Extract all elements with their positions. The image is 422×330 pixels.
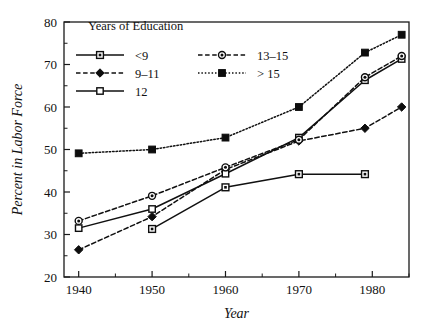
y-tick-label: 70 — [44, 57, 57, 72]
labor-force-line-chart: 20304050607080 19401950196019701980 Year… — [0, 0, 422, 330]
x-tick-label: 1980 — [359, 282, 385, 297]
x-axis-title: Year — [224, 306, 250, 321]
y-tick-label: 50 — [44, 142, 57, 157]
legend-label: 9–11 — [135, 67, 160, 81]
chart-background — [0, 0, 422, 330]
legend-marker — [219, 52, 226, 59]
legend-marker — [97, 88, 103, 94]
y-tick-label: 20 — [44, 270, 57, 285]
y-tick-label: 60 — [44, 100, 57, 115]
legend-title: Years of Education — [88, 19, 184, 33]
x-tick-label: 1960 — [212, 282, 238, 297]
x-tick-label: 1950 — [139, 282, 165, 297]
legend-label: 12 — [135, 85, 148, 99]
x-tick-label: 1940 — [66, 282, 92, 297]
legend-label: <9 — [135, 49, 148, 63]
figure-container: 20304050607080 19401950196019701980 Year… — [0, 0, 422, 330]
y-axis-title: Percent in Labor Force — [10, 84, 25, 217]
legend-label: 13–15 — [257, 49, 288, 63]
y-tick-label: 40 — [44, 185, 57, 200]
x-tick-label: 1970 — [286, 282, 312, 297]
legend-marker — [219, 70, 226, 77]
legend-label: > 15 — [257, 67, 280, 81]
y-tick-label: 30 — [44, 227, 57, 242]
legend-marker — [97, 52, 104, 59]
y-tick-label: 80 — [44, 15, 57, 30]
